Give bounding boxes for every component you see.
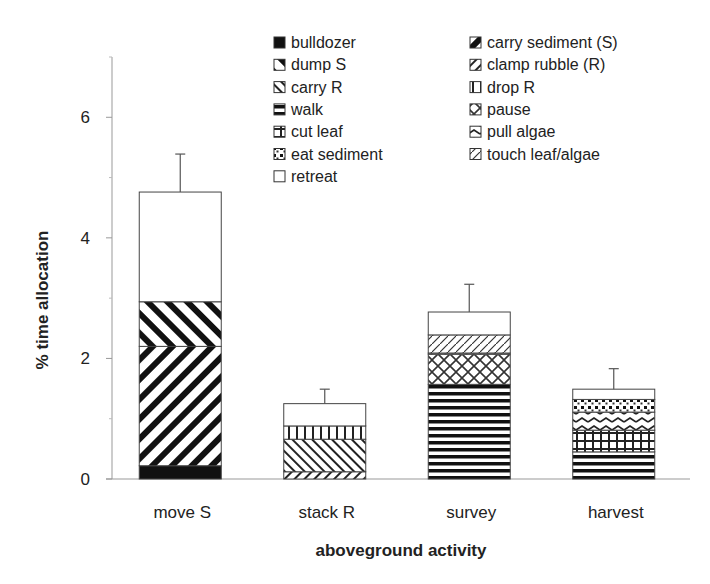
legend-swatch [274, 37, 285, 48]
bar-segment-carry-sediment-s- [139, 346, 221, 465]
stacked-bar-chart: 0246 move Sstack Rsurveyharvest bulldoze… [0, 0, 710, 584]
legend-item: eat sediment [274, 146, 383, 163]
legend-label: touch leaf/algae [487, 146, 600, 163]
legend-swatch [470, 59, 481, 70]
legend-swatch [274, 126, 285, 137]
legend-swatch [274, 149, 285, 160]
bar-group-stack-r: stack R [284, 389, 366, 522]
legend-label: pause [487, 101, 531, 118]
legend-item: clamp rubble (R) [470, 56, 605, 73]
bar-segment-pull-algae [573, 412, 655, 430]
legend-item: bulldozer [274, 34, 357, 51]
legend-label: eat sediment [291, 146, 383, 163]
x-axis-title: aboveground activity [316, 541, 488, 560]
legend: bulldozerdump Scarry Rwalkcut leafeat se… [274, 34, 618, 185]
bar-segment-retreat [139, 192, 221, 302]
legend-item: carry R [274, 79, 343, 96]
bar-segment-retreat [573, 389, 655, 399]
x-tick-label: survey [446, 503, 497, 522]
legend-swatch [274, 59, 285, 70]
bar-segment-clamp-rubble-r- [284, 472, 366, 479]
bar-segment-bulldozer [139, 466, 221, 479]
bar-segment-retreat [284, 404, 366, 426]
legend-item: walk [274, 101, 324, 118]
legend-swatch [470, 37, 481, 48]
bar-segment-cut-leaf [573, 430, 655, 452]
legend-label: walk [290, 101, 324, 118]
legend-item: retreat [274, 168, 338, 185]
legend-swatch [274, 171, 285, 182]
bar-group-harvest: harvest [573, 369, 655, 522]
legend-swatch [470, 82, 481, 93]
legend-label: clamp rubble (R) [487, 56, 605, 73]
y-tick-label: 6 [81, 108, 90, 127]
legend-label: bulldozer [291, 34, 357, 51]
legend-item: drop R [470, 79, 535, 96]
bar-segment-retreat [428, 312, 510, 335]
bar-segment-touch-leaf-algae [428, 335, 510, 353]
bar-segment-dump-s [139, 302, 221, 347]
y-tick-label: 4 [81, 229, 90, 248]
legend-item: touch leaf/algae [470, 146, 600, 163]
bar-group-survey: survey [428, 284, 510, 522]
legend-label: drop R [487, 79, 535, 96]
legend-swatch [470, 104, 481, 115]
legend-label: carry R [291, 79, 343, 96]
legend-label: pull algae [487, 123, 556, 140]
legend-label: retreat [291, 168, 338, 185]
bars: move Sstack Rsurveyharvest [139, 154, 655, 522]
x-tick-label: harvest [588, 503, 644, 522]
bar-segment-drop-r [284, 426, 366, 439]
legend-item: carry sediment (S) [470, 34, 618, 51]
legend-item: dump S [274, 56, 346, 73]
legend-swatch [470, 149, 481, 160]
legend-label: cut leaf [291, 123, 343, 140]
bar-segment-eat-sediment [573, 399, 655, 412]
x-tick-label: stack R [298, 503, 355, 522]
bar-segment-walk [573, 452, 655, 479]
bar-segment-carry-r [284, 439, 366, 472]
legend-label: dump S [291, 56, 346, 73]
y-tick-label: 0 [81, 470, 90, 489]
bar-segment-walk [428, 384, 510, 479]
legend-label: carry sediment (S) [487, 34, 618, 51]
legend-swatch [470, 126, 481, 137]
legend-item: pause [470, 101, 531, 118]
legend-swatch [274, 104, 285, 115]
legend-swatch [274, 82, 285, 93]
y-axis-title: % time allocation [33, 231, 52, 370]
y-tick-label: 2 [81, 349, 90, 368]
x-tick-label: move S [153, 503, 211, 522]
bar-segment-pause [428, 354, 510, 384]
legend-item: pull algae [470, 123, 556, 140]
bar-group-move-s: move S [139, 154, 221, 522]
legend-item: cut leaf [274, 123, 343, 140]
